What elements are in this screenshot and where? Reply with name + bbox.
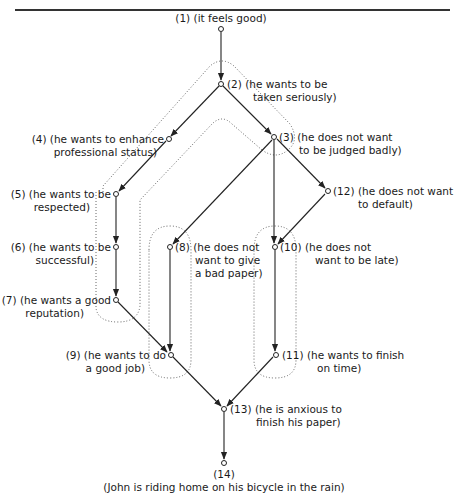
edge-11-13 [227,357,273,406]
label-7-line2: reputation) [25,307,84,319]
label-12-line2: to default) [358,198,413,210]
label-13-line1: (13) (he is anxious to [230,403,342,415]
edge-12-10 [278,194,325,244]
label-13-line2: finish his paper) [256,416,341,428]
label-2-line1: (2) (he wants to be [227,78,327,90]
edge-2-4 [171,86,219,136]
node-14 [222,461,227,466]
label-8-line1: (8) (he does not [175,241,259,253]
label-1: (1) (it feels good) [175,12,266,24]
label-8-line2: want to give [195,254,260,266]
node-11 [274,353,279,358]
goal-tree-diagram: (1) (it feels good) (2) (he wants to be … [0,0,455,496]
label-7-line1: (7) (he wants a good [2,294,111,306]
label-14-line1: (14) [213,468,235,480]
label-5-line2: respected) [34,201,90,213]
node-12 [326,189,331,194]
edge-9-13 [173,357,221,406]
label-6-line1: (6) (he wants to be [11,241,111,253]
node-8 [168,245,173,250]
edge-3-8 [173,140,272,244]
label-14-line2: (John is riding home on his bicycle in t… [103,481,344,493]
node-3 [272,135,277,140]
label-6-line2: successful) [36,254,94,266]
label-5-line1: (5) (he wants to be [11,188,111,200]
label-3-line1: (3) (he does not want [279,131,392,143]
node-9 [169,353,174,358]
label-12-line1: (12) (he does not want [333,185,453,197]
label-10-line2: want to be late) [315,254,399,266]
label-10-line1: (10) (he does not [280,241,371,253]
label-4-line2: professional status) [54,146,157,158]
label-11-line2: on time) [317,362,361,374]
label-3-line2: to be judged badly) [299,144,402,156]
node-13 [222,407,227,412]
edge-7-9 [118,302,167,352]
label-9-line2: a good job) [86,362,145,374]
label-11-line1: (11) (he wants to finish [282,349,404,361]
node-2 [219,82,224,87]
label-9-line1: (9) (he wants to do [66,349,166,361]
node-7 [114,298,119,303]
node-5 [114,192,119,197]
node-10 [273,245,278,250]
node-6 [114,245,119,250]
node-4 [167,137,172,142]
label-2-line2: taken seriously) [253,91,337,103]
label-8-line3: a bad paper) [195,267,263,279]
label-4-line1: (4) (he wants to enhance [32,133,164,145]
node-1 [219,27,224,32]
